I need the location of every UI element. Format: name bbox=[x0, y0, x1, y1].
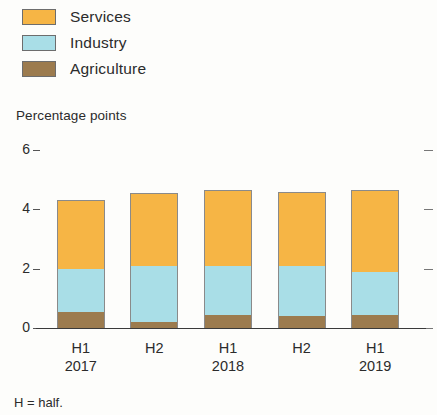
bar-h1-4 bbox=[351, 190, 399, 328]
x-axis-label: H2 bbox=[114, 339, 194, 357]
bar-h2-3 bbox=[278, 192, 326, 328]
bar-h2-1 bbox=[130, 193, 178, 328]
bar-segment-agriculture bbox=[351, 315, 399, 328]
x-axis-label: H12017 bbox=[41, 339, 121, 375]
y-tick-label: 2 bbox=[10, 260, 30, 276]
y-tick-label: 4 bbox=[10, 200, 30, 216]
x-axis-label-half: H1 bbox=[41, 339, 121, 357]
y-tick-mark bbox=[33, 150, 40, 151]
chart-footnote: H = half. bbox=[14, 395, 63, 410]
x-axis-label-half: H2 bbox=[262, 339, 342, 357]
bar-segment-services bbox=[204, 190, 252, 266]
bar-segment-agriculture bbox=[130, 322, 178, 328]
x-axis-label-half: H2 bbox=[114, 339, 194, 357]
y-tick-mark bbox=[33, 209, 40, 210]
x-axis-label-year: 2019 bbox=[335, 357, 415, 375]
x-axis-label-year: 2017 bbox=[41, 357, 121, 375]
x-axis-label: H12018 bbox=[188, 339, 268, 375]
y-tick-label: 0 bbox=[10, 319, 30, 335]
x-axis-label: H12019 bbox=[335, 339, 415, 375]
bar-segment-agriculture bbox=[278, 316, 326, 328]
bar-segment-agriculture bbox=[57, 312, 105, 328]
bar-segment-industry bbox=[278, 266, 326, 316]
y-tick-mark-right bbox=[424, 209, 433, 210]
x-axis-label-half: H1 bbox=[188, 339, 268, 357]
x-axis-label-year: 2018 bbox=[188, 357, 268, 375]
x-axis-baseline bbox=[36, 328, 426, 329]
x-axis-label-half: H1 bbox=[335, 339, 415, 357]
bar-segment-services bbox=[351, 190, 399, 272]
bar-h1-0 bbox=[57, 200, 105, 328]
bar-segment-industry bbox=[204, 266, 252, 315]
bar-segment-agriculture bbox=[204, 315, 252, 328]
stacked-bar-chart: 0246H12017H2H12018H2H12019 bbox=[0, 0, 437, 415]
bar-segment-industry bbox=[57, 269, 105, 312]
bar-segment-services bbox=[278, 192, 326, 266]
y-tick-label: 6 bbox=[10, 141, 30, 157]
bar-segment-industry bbox=[130, 266, 178, 322]
bar-segment-services bbox=[130, 193, 178, 266]
bar-segment-services bbox=[57, 200, 105, 268]
bar-segment-industry bbox=[351, 272, 399, 315]
y-tick-mark bbox=[33, 269, 40, 270]
x-axis-label: H2 bbox=[262, 339, 342, 357]
bar-h1-2 bbox=[204, 190, 252, 328]
y-tick-mark-right bbox=[424, 150, 433, 151]
y-tick-mark-right bbox=[424, 269, 433, 270]
